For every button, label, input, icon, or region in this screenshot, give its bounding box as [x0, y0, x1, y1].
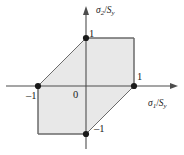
- tick-label-x-negative-one: –1: [26, 91, 37, 102]
- yield-criterion-figure: 1 1 0 –1 –1 σ2/Sy σ1/Sy: [0, 0, 184, 155]
- hexagon-plot-svg: [0, 0, 184, 155]
- vertex-marker-bottom: [83, 131, 89, 137]
- vertex-marker-right: [131, 83, 137, 89]
- x-axis-label: σ1/Sy: [148, 99, 167, 110]
- y-axis-label: σ2/Sy: [96, 6, 115, 17]
- x-axis-arrow-icon: [170, 83, 178, 89]
- vertex-marker-left: [35, 83, 41, 89]
- tick-label-y-negative-one: –1: [94, 124, 105, 135]
- x-axis-denominator-subscript: y: [164, 102, 167, 110]
- tick-label-x-positive-one: 1: [137, 72, 142, 83]
- y-axis-denominator-subscript: y: [112, 9, 115, 17]
- tick-label-origin: 0: [73, 90, 78, 101]
- y-axis-arrow-icon: [83, 6, 89, 15]
- tick-label-y-positive-one: 1: [89, 29, 94, 40]
